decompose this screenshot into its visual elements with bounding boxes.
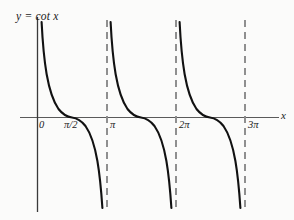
tick-label-origin: 0 [39,120,44,131]
curve-equation-label: y = cot x [16,11,58,23]
x-axis-label: x [281,110,286,121]
cot-branch-3 [180,22,241,208]
tick-label-pi: π [110,120,115,131]
cot-branch-1 [42,22,103,208]
cot-branch-2 [111,22,172,208]
tick-label-half-pi: π/2 [64,120,77,131]
cotangent-graph-figure: y = cot x x 0 π/2 π 2π 3π [0,0,294,220]
plot-canvas [0,0,294,220]
tick-label-3pi: 3π [248,120,259,131]
tick-label-2pi: 2π [179,120,190,131]
